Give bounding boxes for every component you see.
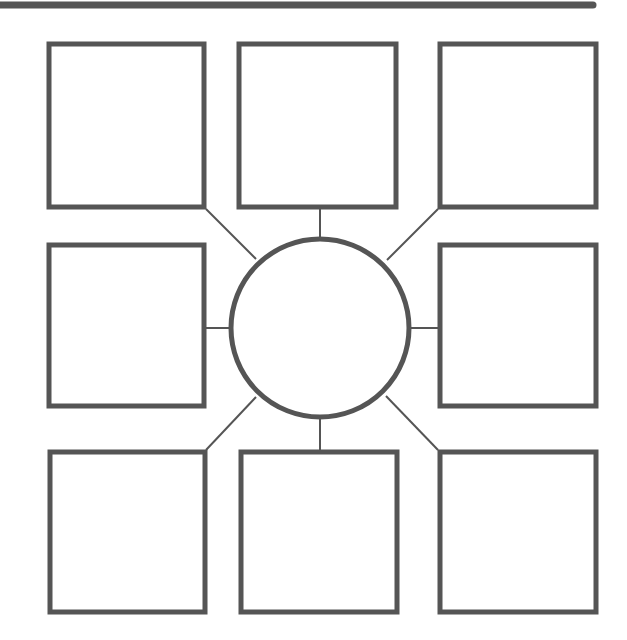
box-frame[interactable] <box>440 44 596 207</box>
box-top-center[interactable] <box>239 44 396 207</box>
box-bottom-center[interactable] <box>241 452 397 612</box>
box-middle-left[interactable] <box>49 245 204 406</box>
spider-map-diagram <box>0 0 627 640</box>
box-top-left[interactable] <box>49 44 204 207</box>
connector-line-top-right <box>387 209 438 260</box>
box-bottom-right[interactable] <box>440 452 596 612</box>
box-frame[interactable] <box>241 452 397 612</box>
box-frame[interactable] <box>49 245 204 406</box>
box-frame[interactable] <box>239 44 396 207</box>
box-frame[interactable] <box>440 245 596 406</box>
box-frame[interactable] <box>49 44 204 207</box>
connector-line-top-left <box>206 209 256 259</box>
connector-line-bottom-left <box>206 397 256 450</box>
box-frame[interactable] <box>440 452 596 612</box>
center-circle[interactable] <box>231 239 409 417</box>
box-bottom-left[interactable] <box>50 452 205 612</box>
box-middle-right[interactable] <box>440 245 596 406</box>
connector-line-bottom-right <box>386 396 438 450</box>
box-top-right[interactable] <box>440 44 596 207</box>
box-frame[interactable] <box>50 452 205 612</box>
